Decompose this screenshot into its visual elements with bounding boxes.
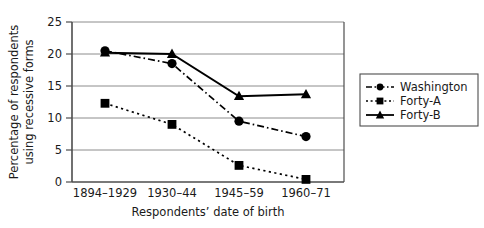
legend-marker-square-icon	[377, 98, 384, 105]
legend-label-washington: Washington	[400, 80, 468, 94]
plot-area-background	[72, 22, 344, 182]
y-tick-labels: 0 5 10 15 20 25	[47, 15, 62, 189]
legend-marker-circle-icon	[377, 84, 384, 91]
x-axis-title: Respondents’ date of birth	[132, 205, 285, 219]
y-axis-title: Percentage of respondents using recessiv…	[7, 25, 36, 179]
line-chart-svg: Percentage of respondents using recessiv…	[0, 0, 484, 228]
y-tick-label-5: 5	[55, 143, 62, 157]
x-tick-label-0: 1894–1929	[73, 186, 137, 200]
x-tick-label-3: 1960–71	[281, 186, 331, 200]
data-point-washington-0	[100, 46, 109, 55]
data-point-forty-a-1	[168, 120, 177, 129]
y-tick-label-10: 10	[47, 111, 62, 125]
data-point-forty-a-3	[302, 175, 311, 184]
data-point-forty-a-0	[101, 99, 110, 108]
legend-label-forty-a: Forty-A	[400, 94, 441, 108]
data-point-forty-a-2	[235, 161, 244, 170]
data-point-washington-1	[167, 59, 176, 68]
x-tick-label-2: 1945–59	[214, 186, 264, 200]
y-tick-label-25: 25	[47, 15, 62, 29]
x-tick-label-1: 1930–44	[147, 186, 197, 200]
y-axis-title-line1: Percentage of respondents	[7, 25, 21, 179]
data-point-washington-2	[234, 117, 243, 126]
y-tick-label-15: 15	[47, 79, 62, 93]
x-tick-labels: 1894–1929 1930–44 1945–59 1960–71	[73, 186, 331, 200]
y-tick-label-0: 0	[55, 175, 62, 189]
y-axis-title-line2: using recessive forms	[22, 39, 36, 164]
y-axis-ticks	[66, 22, 72, 182]
legend-label-forty-b: Forty-B	[400, 108, 441, 122]
chart-legend: Washington Forty-A Forty-B	[360, 74, 478, 126]
y-tick-label-20: 20	[47, 47, 62, 61]
chart-figure: Percentage of respondents using recessiv…	[0, 0, 484, 228]
data-point-washington-3	[301, 132, 310, 141]
